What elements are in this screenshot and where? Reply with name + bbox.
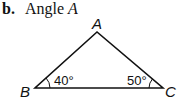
vertex-label-c: C xyxy=(165,83,176,100)
angle-label-c: 50° xyxy=(127,73,147,88)
angle-label-b: 40° xyxy=(54,73,74,88)
vertex-label-a: A xyxy=(91,15,102,32)
angle-arc-c xyxy=(149,79,153,88)
triangle-diagram: A B C 40° 50° xyxy=(0,0,186,112)
angle-arc-b xyxy=(46,78,50,88)
vertex-label-b: B xyxy=(20,83,30,100)
